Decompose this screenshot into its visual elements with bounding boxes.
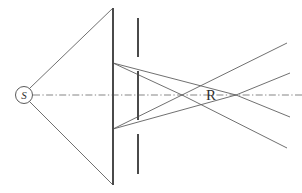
- ray-upper-cone-out: [182, 43, 287, 95]
- ray-lower-cone-out: [182, 95, 287, 148]
- ray-diagram-figure: S R: [0, 0, 302, 193]
- source-label: S: [21, 89, 27, 101]
- ray-diagram-canvas: S R: [0, 0, 302, 193]
- ray-upper-marginal-in: [113, 63, 236, 95]
- ray-source-lower: [30, 102, 113, 185]
- ray-lower-marginal-in: [113, 95, 236, 129]
- ray-upper-marginal-out: [236, 73, 290, 95]
- ray-lower-marginal-out: [236, 95, 290, 117]
- ray-lower-cone-in: [113, 95, 182, 129]
- focus-label: R: [206, 87, 216, 103]
- ray-source-upper: [30, 8, 113, 88]
- ray-upper-cone-in: [113, 63, 182, 95]
